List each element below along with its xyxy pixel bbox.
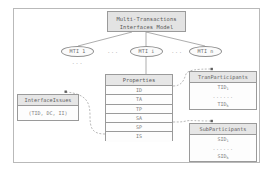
sub-participants-header: SubParticipants	[190, 124, 256, 135]
sub-participants-item-last-sub: k	[226, 156, 228, 160]
tran-participants-ellipsis: ......	[190, 92, 256, 100]
mti-node-1: MTI 1	[61, 46, 94, 57]
mti-node-i: MTI i	[130, 46, 163, 57]
mti-node-i-label: MTI i	[138, 48, 154, 54]
sub-participants-item-first: SID1	[190, 135, 256, 144]
interface-issues-header: InterfaceIssues	[18, 95, 78, 106]
ellipsis-below-mti1: ...	[61, 57, 94, 68]
tran-participants-item-first-sub: 1	[226, 87, 228, 91]
root-title-line2: Interfaces Model	[108, 23, 185, 31]
properties-table: Properties ID TA TP SA SP IS	[105, 74, 173, 141]
tran-participants-box: TranParticipants TID1 ...... TIDk	[189, 71, 257, 110]
tran-participants-item-last-sub: k	[226, 104, 228, 108]
tran-participants-item-last: TIDk	[190, 100, 256, 109]
sub-participants-item-first-sub: 1	[226, 139, 228, 143]
mti-node-1-label: MTI 1	[69, 48, 85, 54]
root-title-line1: Multi-Transactions	[108, 15, 185, 23]
ellipsis-between-mti1-mtii: ...	[99, 46, 127, 57]
properties-row-tp: TP	[106, 105, 172, 114]
tran-participants-header: TranParticipants	[190, 72, 256, 83]
mti-node-n-label: MTI n	[197, 48, 213, 54]
sub-participants-item-last: SIDk	[190, 152, 256, 161]
properties-row-is: IS	[106, 132, 172, 141]
interface-issues-box: InterfaceIssues (TID, DC, II)	[17, 94, 79, 121]
properties-row-id: ID	[106, 86, 172, 95]
interface-issues-body: (TID, DC, II)	[18, 106, 78, 121]
ellipsis-between-mtii-mtin: ...	[165, 46, 189, 57]
diagram-canvas: Multi-Transactions Interfaces Model MTI …	[0, 0, 274, 174]
tran-participants-item-first: TID1	[190, 83, 256, 92]
properties-header: Properties	[106, 75, 172, 86]
properties-row-sp: SP	[106, 123, 172, 132]
mti-node-n: MTI n	[189, 46, 222, 57]
root-model-box: Multi-Transactions Interfaces Model	[107, 11, 186, 32]
sub-participants-box: SubParticipants SID1 ...... SIDk	[189, 123, 257, 162]
properties-row-ta: TA	[106, 95, 172, 104]
properties-row-sa: SA	[106, 114, 172, 123]
sub-participants-ellipsis: ......	[190, 144, 256, 152]
